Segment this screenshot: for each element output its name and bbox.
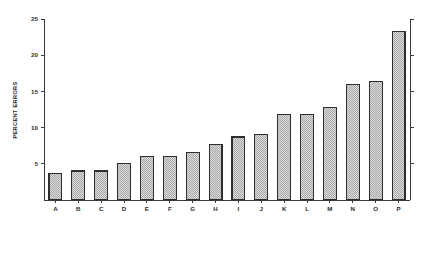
y-axis-tick-label: 5 (35, 160, 39, 167)
x-axis-label-C: C (99, 205, 104, 212)
bar-E (141, 157, 154, 200)
x-axis-label-B: B (76, 205, 81, 212)
bar (392, 31, 405, 200)
bar (278, 115, 291, 200)
bar (324, 107, 337, 200)
bar-I (232, 137, 245, 200)
y-axis-tick-label: 10 (31, 124, 38, 131)
bar (186, 152, 199, 200)
bar (209, 144, 222, 200)
x-axis-label-D: D (122, 205, 127, 212)
bar-P (392, 31, 405, 200)
y-axis-title: PERCENT ERRORS (12, 81, 18, 138)
bar-C (95, 171, 108, 200)
x-axis-label-I: I (238, 205, 240, 212)
y-axis-tick-label: 20 (31, 51, 38, 58)
bar (346, 85, 359, 200)
x-axis-label-O: O (373, 205, 378, 212)
bar-F (163, 157, 176, 200)
bar-N (346, 85, 359, 200)
bar (49, 174, 62, 200)
y-axis-tick-label: 15 (31, 88, 38, 95)
x-axis-label-F: F (168, 205, 172, 212)
x-axis-label-J: J (260, 205, 264, 212)
bar-B (72, 171, 85, 200)
bar-J (255, 135, 268, 200)
bar (118, 163, 131, 200)
bar (141, 157, 154, 200)
x-axis-label-A: A (53, 205, 58, 212)
chart-canvas: 510152025 ABCDEFGHIJKLMNOP PERCENT ERROR… (0, 0, 443, 262)
x-axis-label-N: N (351, 205, 356, 212)
x-axis-label-H: H (213, 205, 218, 212)
x-axis-label-G: G (190, 205, 195, 212)
x-axis-label-M: M (327, 205, 332, 212)
bar-H (209, 144, 222, 200)
bar-L (301, 115, 314, 200)
bar-D (118, 163, 131, 200)
bar (369, 81, 382, 200)
x-axis-label-K: K (282, 205, 287, 212)
x-axis-label-P: P (396, 205, 400, 212)
bar-M (324, 107, 337, 200)
bar (301, 115, 314, 200)
bar-A (49, 174, 62, 200)
bar-chart-figure: 510152025 ABCDEFGHIJKLMNOP PERCENT ERROR… (0, 0, 443, 262)
x-axis-label-L: L (305, 205, 309, 212)
bar (95, 171, 108, 200)
bar-G (186, 152, 199, 200)
bar (255, 135, 268, 200)
y-axis-tick-label: 25 (31, 15, 38, 22)
bar (163, 157, 176, 200)
bar-O (369, 81, 382, 200)
bar (232, 137, 245, 200)
x-axis-label-E: E (145, 205, 149, 212)
bar-K (278, 115, 291, 200)
bar (72, 171, 85, 200)
